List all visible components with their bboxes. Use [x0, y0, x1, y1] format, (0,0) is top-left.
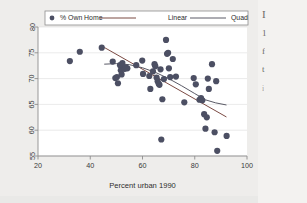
scatter-point [202, 126, 208, 132]
scatter-point [212, 129, 218, 135]
scatter-point [173, 73, 179, 79]
scatter-point [193, 81, 199, 87]
scatter-point [161, 76, 167, 82]
legend-label: Quad [231, 14, 248, 22]
chart-legend: % Own HomeLinearQuad [45, 11, 248, 25]
scatter-point [165, 50, 171, 56]
scatter-point [204, 114, 210, 120]
x-tick-label: 20 [34, 161, 42, 170]
x-axis-ticks [38, 156, 247, 160]
plot-panel [38, 27, 247, 156]
scatter-point [199, 97, 205, 103]
scatter-point [99, 45, 105, 51]
x-tick-label: 100 [241, 161, 253, 170]
scatter-point [205, 76, 211, 82]
scatter-point [119, 71, 125, 77]
legend-label: Linear [168, 14, 188, 21]
page-text-line: 1 [262, 28, 267, 38]
scatter-point [67, 58, 73, 64]
scatter-point [140, 71, 146, 77]
page-text-line: f [262, 46, 265, 56]
x-tick-label: 40 [86, 161, 94, 170]
page-text-line: I [262, 8, 266, 20]
scatter-point [156, 82, 162, 88]
y-tick-label: 60 [28, 126, 37, 134]
scatter-point [139, 57, 145, 63]
scatter-plot-svg: 556065707580 20406080100 Percent urban 1… [0, 0, 258, 196]
legend-marker-icon [50, 16, 55, 21]
x-tick-label: 80 [191, 161, 199, 170]
x-axis-title: Percent urban 1990 [109, 181, 176, 190]
scatter-point [167, 74, 173, 80]
scatter-point [209, 61, 215, 67]
x-axis-tick-labels: 20406080100 [34, 161, 253, 170]
page-text-column: I 1 f t i [258, 0, 307, 203]
scatter-point [133, 62, 139, 68]
scatter-point [224, 133, 230, 139]
scatter-point [191, 75, 197, 81]
y-tick-label: 70 [28, 75, 37, 83]
y-axis-tick-labels: 556065707580 [28, 23, 37, 160]
chart-figure: 556065707580 20406080100 Percent urban 1… [0, 0, 258, 196]
scatter-point [147, 86, 153, 92]
y-tick-label: 80 [28, 23, 37, 31]
y-tick-label: 65 [28, 100, 37, 108]
y-axis-ticks [35, 27, 39, 156]
scatter-point [181, 99, 187, 105]
scatter-point [77, 49, 83, 55]
scatter-point [170, 56, 176, 62]
scatter-point [158, 136, 164, 142]
page-text-line: i [262, 84, 264, 93]
scatter-point [163, 37, 169, 43]
y-tick-label: 75 [28, 49, 37, 57]
scatter-point [213, 78, 219, 84]
scatter-point [159, 96, 165, 102]
scatter-point [124, 65, 130, 71]
scatter-point [157, 66, 163, 72]
scatter-point [166, 65, 172, 71]
scatter-point [214, 148, 220, 154]
scatter-point [110, 58, 116, 64]
figure-root: I 1 f t i 556065707580 20406080100 [0, 0, 307, 203]
scatter-point [152, 63, 158, 69]
y-tick-label: 55 [28, 152, 37, 160]
legend-label: % Own Home [60, 14, 103, 21]
x-tick-label: 60 [139, 161, 147, 170]
scatter-point [206, 86, 212, 92]
page-text-line: t [262, 64, 265, 74]
scatter-point [115, 80, 121, 86]
